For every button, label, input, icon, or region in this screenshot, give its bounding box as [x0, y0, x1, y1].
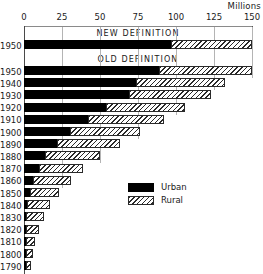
- year-label: 1830: [0, 213, 21, 223]
- year-label: 1890: [0, 140, 21, 150]
- grid-line: [252, 27, 253, 78]
- year-label: 1820: [0, 225, 21, 235]
- bar-rural: [26, 261, 32, 270]
- bar-urban: [24, 176, 33, 185]
- bar-rural: [171, 40, 252, 49]
- axis-tick-label: 150: [244, 12, 260, 22]
- bar-rural: [88, 115, 164, 124]
- axis-tick-label: 125: [206, 12, 222, 22]
- axis-tick-label: 25: [57, 12, 68, 22]
- year-label: 1940: [0, 79, 21, 89]
- bar-rural: [33, 176, 71, 185]
- legend-item: Rural: [128, 195, 183, 205]
- bar-rural: [45, 151, 100, 160]
- legend-item: Urban: [128, 182, 187, 192]
- year-label: 1840: [0, 201, 21, 211]
- bar-rural: [106, 103, 185, 112]
- bar-rural: [136, 78, 224, 87]
- axis-unit-label: Millions: [228, 1, 261, 11]
- legend-swatch-rural: [128, 196, 154, 205]
- bar-urban: [24, 66, 159, 75]
- bar-urban: [24, 164, 39, 173]
- axis-tick-label: 0: [21, 12, 26, 22]
- legend-label: Urban: [161, 182, 187, 192]
- bar-rural: [159, 66, 252, 75]
- year-label: 1950: [0, 67, 21, 77]
- bar-rural: [27, 200, 50, 209]
- year-label: 1790: [0, 262, 21, 272]
- bar-urban: [24, 90, 129, 99]
- bar-rural: [26, 212, 44, 221]
- year-label: 1930: [0, 91, 21, 101]
- bar-rural: [57, 139, 119, 148]
- year-label: 1810: [0, 237, 21, 247]
- bar-rural: [26, 249, 34, 258]
- year-label: 1860: [0, 176, 21, 186]
- year-label: 1870: [0, 164, 21, 174]
- year-label: 1880: [0, 152, 21, 162]
- axis-tick-label: 50: [95, 12, 106, 22]
- bar-urban: [24, 103, 106, 112]
- axis-tick-label: 75: [133, 12, 144, 22]
- axis-tick-label: 100: [168, 12, 184, 22]
- year-label: 1850: [0, 189, 21, 199]
- year-label: 1900: [0, 128, 21, 138]
- bar-urban: [24, 139, 57, 148]
- bar-urban: [24, 115, 88, 124]
- year-label: 1950: [0, 41, 21, 51]
- year-label: 1920: [0, 103, 21, 113]
- bar-urban: [24, 151, 45, 160]
- legend-label: Rural: [161, 195, 183, 205]
- bar-rural: [30, 188, 59, 197]
- bar-urban: [24, 78, 136, 87]
- bar-rural: [26, 237, 35, 246]
- bar-urban: [24, 40, 171, 49]
- year-label: 1800: [0, 250, 21, 260]
- bar-urban: [24, 127, 70, 136]
- year-label: 1910: [0, 115, 21, 125]
- bar-rural: [26, 225, 40, 234]
- bar-rural: [39, 164, 83, 173]
- bar-rural: [70, 127, 140, 136]
- legend-swatch-urban: [128, 183, 154, 192]
- bar-rural: [129, 90, 211, 99]
